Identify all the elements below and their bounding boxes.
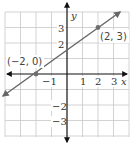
point-neg2-0 [34,72,39,77]
x-tick-3: 3 [111,76,117,87]
x-axis-label: x [121,76,127,87]
x-tick-1: 1 [80,76,86,87]
y-axis-label: y [70,10,77,21]
point-2-3 [96,25,101,30]
y-tick-3: 3 [58,23,64,34]
point-label-2-3: (2, 3) [100,31,127,42]
coordinate-graph: −1 1 2 3 x 3 2 −2 −3 y (2, 3) (−2, 0) [0,0,130,144]
y-tick-neg3: −3 [52,116,67,127]
point-label-neg2-0: (−2, 0) [7,56,42,67]
x-tick-2: 2 [95,76,101,87]
x-tick-neg1: −1 [42,76,57,87]
y-tick-2: 2 [58,39,64,50]
y-tick-neg2: −2 [52,101,67,112]
